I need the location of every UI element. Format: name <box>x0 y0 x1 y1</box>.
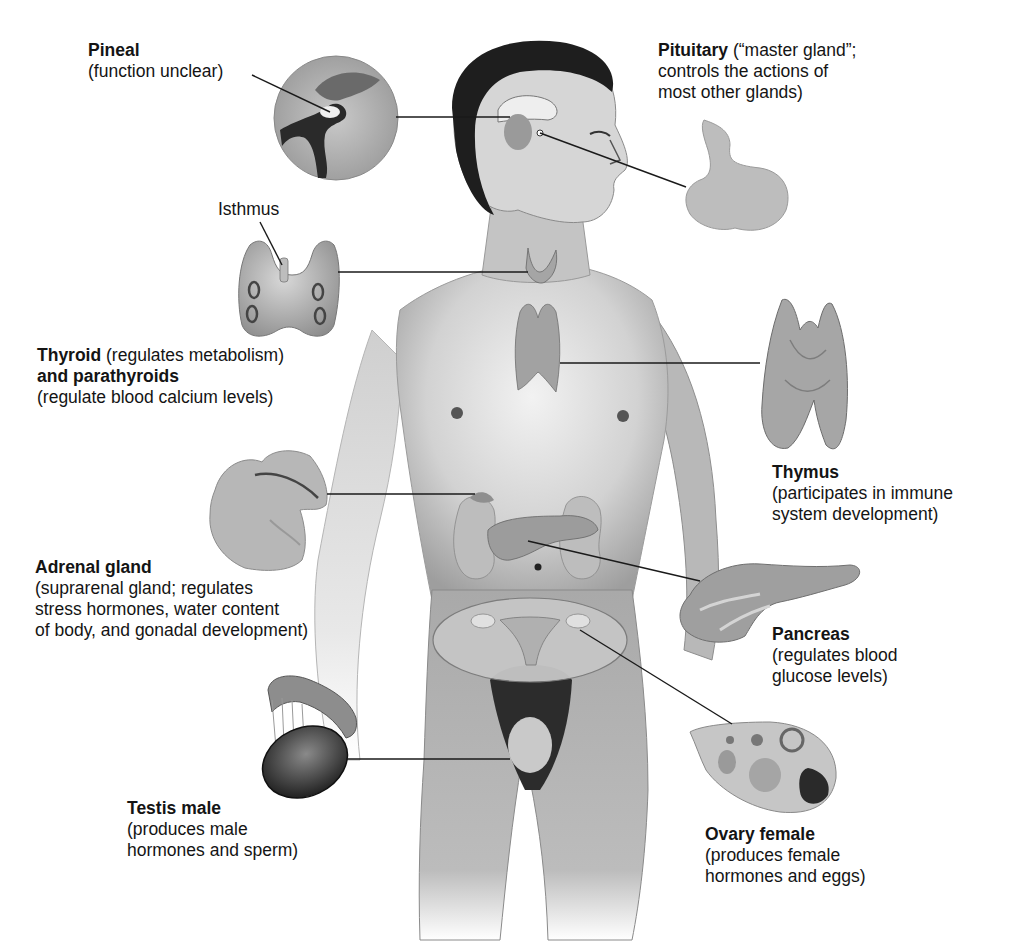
parathyroids-title: and parathyroids <box>37 366 284 387</box>
pineal-desc-1: (function unclear) <box>88 61 223 82</box>
adrenal-inset <box>210 451 327 571</box>
pancreas-desc-1: (regulates blood <box>772 645 898 666</box>
isthmus-title: Isthmus <box>218 199 279 220</box>
human-figure <box>315 41 719 940</box>
ovary-right-on-body <box>566 614 590 628</box>
pituitary-gland <box>686 120 788 230</box>
testis-desc-1: (produces male <box>127 819 298 840</box>
thyroid-title-suffix: (regulates metabolism) <box>101 345 284 365</box>
thymus-desc-1: (participates in immune <box>772 483 953 504</box>
thymus-inset <box>762 299 848 449</box>
endocrine-diagram: Pineal (function unclear) Pituitary (“ma… <box>0 0 1029 943</box>
label-thyroid: Thyroid (regulates metabolism) and parat… <box>37 345 284 408</box>
thyroid-title: Thyroid <box>37 345 101 365</box>
nipple-right <box>617 410 629 422</box>
label-testis: Testis male (produces male hormones and … <box>127 798 298 861</box>
navel <box>535 564 542 571</box>
ovary-desc-2: hormones and eggs) <box>705 866 866 887</box>
label-ovary: Ovary female (produces female hormones a… <box>705 824 866 887</box>
label-isthmus: Isthmus <box>218 199 279 220</box>
adrenal-desc-1: (suprarenal gland; regulates <box>35 578 308 599</box>
brain-core <box>504 114 532 150</box>
thyroid-desc-1: (regulate blood calcium levels) <box>37 387 284 408</box>
pancreas-desc-2: glucose levels) <box>772 666 898 687</box>
label-pituitary: Pituitary (“master gland”; controls the … <box>658 40 856 103</box>
testis-title: Testis male <box>127 798 298 819</box>
ovary-title: Ovary female <box>705 824 866 845</box>
testis-desc-2: hormones and sperm) <box>127 840 298 861</box>
ovary-left-on-body <box>471 614 495 628</box>
thymus-desc-2: system development) <box>772 504 953 525</box>
thymus-title: Thymus <box>772 462 953 483</box>
pineal-inset <box>274 56 398 180</box>
thyroid-inset <box>239 241 340 336</box>
nipple-left <box>451 407 463 419</box>
pituitary-desc-1: controls the actions of <box>658 61 856 82</box>
pineal-title: Pineal <box>88 40 223 61</box>
pituitary-desc-2: most other glands) <box>658 82 856 103</box>
ovary-desc-1: (produces female <box>705 845 866 866</box>
genitals <box>508 717 552 773</box>
pituitary-title-suffix: (“master gland”; <box>728 40 856 60</box>
ovary-inset <box>690 722 836 813</box>
adrenal-title: Adrenal gland <box>35 557 308 578</box>
label-thymus: Thymus (participates in immune system de… <box>772 462 953 525</box>
adrenal-desc-2: stress hormones, water content <box>35 599 308 620</box>
pancreas-title: Pancreas <box>772 624 898 645</box>
label-pineal: Pineal (function unclear) <box>88 40 223 82</box>
label-adrenal: Adrenal gland (suprarenal gland; regulat… <box>35 557 308 641</box>
adrenal-desc-3: of body, and gonadal development) <box>35 620 308 641</box>
pituitary-title: Pituitary <box>658 40 728 60</box>
label-pancreas: Pancreas (regulates blood glucose levels… <box>772 624 898 687</box>
